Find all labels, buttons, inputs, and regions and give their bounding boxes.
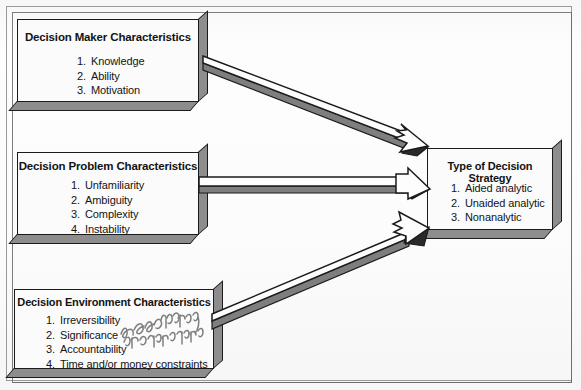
list-item-number: 2. xyxy=(40,328,55,343)
box-side-face-bottom xyxy=(418,229,553,239)
list-item-label: Ambiguity xyxy=(85,193,132,208)
box-decision-environment-characteristics[interactable]: Decision Environment Characteristics 1. … xyxy=(14,289,214,369)
list-item: 1. Irreversibility xyxy=(40,313,208,328)
list-item-number: 2. xyxy=(71,69,86,84)
list-item: 3. Accountability xyxy=(40,342,208,357)
list-item-number: 3. xyxy=(445,210,460,225)
list-item: 4. Time and/or money constraints xyxy=(40,357,208,372)
list-item-number: 4. xyxy=(40,357,55,372)
list-item-label: Unaided analytic xyxy=(465,196,545,211)
box-list-decision-environment: 1. Irreversibility 2. Significance 3. Ac… xyxy=(40,313,208,371)
list-item-label: Knowledge xyxy=(91,54,145,69)
list-item: 2. Ability xyxy=(71,69,145,84)
list-item-number: 4. xyxy=(65,222,80,237)
list-item-label: Nonanalytic xyxy=(465,210,521,225)
list-item-label: Irreversibility xyxy=(60,313,120,328)
list-item-label: Complexity xyxy=(85,207,138,222)
list-item-number: 3. xyxy=(40,342,55,357)
list-item: 1. Unfamiliarity xyxy=(65,178,144,193)
list-item-number: 1. xyxy=(40,313,55,328)
box-title-decision-maker: Decision Maker Characteristics xyxy=(17,31,199,43)
list-item: 1. Knowledge xyxy=(71,54,145,69)
box-list-decision-strategy: 1. Aided analytic 2. Unaided analytic 3.… xyxy=(445,181,545,225)
list-item-label: Unfamiliarity xyxy=(85,178,144,193)
box-decision-maker-characteristics[interactable]: Decision Maker Characteristics 1. Knowle… xyxy=(17,19,199,102)
list-item-number: 2. xyxy=(445,196,460,211)
list-item: 3. Motivation xyxy=(71,83,145,98)
list-item-number: 3. xyxy=(71,83,86,98)
list-item: 4. Instability xyxy=(65,222,144,237)
list-item-label: Accountability xyxy=(60,342,126,357)
list-item-label: Aided analytic xyxy=(465,181,532,196)
box-list-decision-maker: 1. Knowledge 2. Ability 3. Motivation xyxy=(71,54,145,98)
list-item-label: Instability xyxy=(85,222,130,237)
list-item: 3. Nonanalytic xyxy=(445,210,545,225)
box-title-decision-environment: Decision Environment Characteristics xyxy=(14,296,214,308)
box-side-face-right xyxy=(552,139,562,230)
list-item-label: Motivation xyxy=(91,83,140,98)
list-item-number: 2. xyxy=(65,193,80,208)
list-item-number: 1. xyxy=(65,178,80,193)
box-list-decision-problem: 1. Unfamiliarity 2. Ambiguity 3. Complex… xyxy=(65,178,144,236)
list-item: 2. Unaided analytic xyxy=(445,196,545,211)
list-item: 3. Complexity xyxy=(65,207,144,222)
list-item-number: 3. xyxy=(65,207,80,222)
box-title-decision-problem: Decision Problem Characteristics xyxy=(17,160,199,172)
list-item: 1. Aided analytic xyxy=(445,181,545,196)
list-item-label: Ability xyxy=(91,69,120,84)
box-type-of-decision-strategy[interactable]: Type of Decision Strategy 1. Aided analy… xyxy=(427,148,553,230)
list-item-number: 1. xyxy=(71,54,86,69)
list-item-label: Significance xyxy=(60,328,118,343)
list-item: 2. Ambiguity xyxy=(65,193,144,208)
box-side-face-bottom xyxy=(8,101,199,111)
list-item-label: Time and/or money constraints xyxy=(60,357,208,372)
box-decision-problem-characteristics[interactable]: Decision Problem Characteristics 1. Unfa… xyxy=(17,152,199,235)
list-item-number: 1. xyxy=(445,181,460,196)
diagram-page: .shaft { fill:#fdfdfd; stroke:#1b1b1b; s… xyxy=(0,0,581,390)
list-item: 2. Significance xyxy=(40,328,208,343)
